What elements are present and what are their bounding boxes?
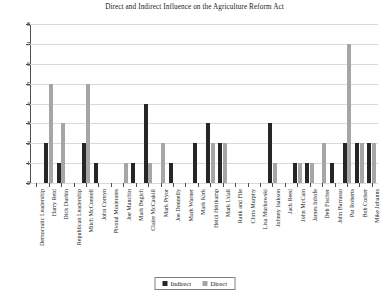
x-tick-label: Jack Reed bbox=[287, 189, 293, 214]
x-tick-mark bbox=[123, 183, 124, 187]
x-tick-mark bbox=[272, 183, 273, 187]
x-tick-label: John Barrasso bbox=[337, 189, 343, 223]
grid-line bbox=[30, 64, 378, 65]
bar-indirect bbox=[343, 143, 347, 183]
x-tick-mark bbox=[86, 183, 87, 187]
bar-direct bbox=[161, 143, 165, 183]
x-tick-mark bbox=[223, 183, 224, 187]
x-tick-mark bbox=[111, 183, 112, 187]
x-tick-label: John Cornyn bbox=[101, 189, 107, 220]
x-tick-mark bbox=[74, 183, 75, 187]
chart-container: Direct and Indirect Influence on the Agr… bbox=[0, 0, 389, 302]
bar-indirect bbox=[268, 123, 272, 183]
x-tick-mark bbox=[98, 183, 99, 187]
x-tick-label: James Inhofe bbox=[312, 189, 318, 221]
x-tick-mark bbox=[310, 183, 311, 187]
x-tick-label: Heidi Heitkamp bbox=[213, 189, 219, 228]
x-tick-mark bbox=[49, 183, 50, 187]
x-tick-mark bbox=[36, 183, 37, 187]
x-tick-label: Mark Udall bbox=[225, 189, 231, 217]
x-tick-mark bbox=[210, 183, 211, 187]
bar-indirect bbox=[355, 143, 359, 183]
bar-indirect bbox=[144, 104, 148, 184]
bar-direct bbox=[310, 163, 314, 183]
legend-item-indirect: Indirect bbox=[162, 280, 191, 287]
x-tick-mark bbox=[285, 183, 286, 187]
bar-direct bbox=[347, 44, 351, 183]
x-tick-label: Joe Manchin bbox=[126, 189, 132, 220]
bar-direct bbox=[223, 143, 227, 183]
legend-item-direct: Direct bbox=[202, 280, 227, 287]
x-tick-label: Republican Leadership bbox=[76, 189, 82, 245]
x-tick-label: Mark Pryor bbox=[163, 189, 169, 217]
x-tick-mark bbox=[161, 183, 162, 187]
x-tick-label: Dick Durbin bbox=[63, 189, 69, 220]
x-tick-mark bbox=[260, 183, 261, 187]
x-tick-label: Bob Corker bbox=[362, 189, 368, 218]
bar-indirect bbox=[169, 163, 173, 183]
x-tick-mark bbox=[136, 183, 137, 187]
x-tick-mark bbox=[359, 183, 360, 187]
x-tick-mark bbox=[148, 183, 149, 187]
bar-direct bbox=[61, 123, 65, 183]
bar-direct bbox=[322, 143, 326, 183]
x-tick-label: John McCain bbox=[300, 189, 306, 222]
grid-line bbox=[30, 104, 378, 105]
bar-direct bbox=[298, 163, 302, 183]
grid-line bbox=[30, 183, 378, 184]
plot-area bbox=[30, 24, 378, 183]
x-tick-label: Mark Kirk bbox=[200, 189, 206, 215]
x-tick-mark bbox=[235, 183, 236, 187]
legend-swatch-indirect-icon bbox=[162, 281, 167, 286]
x-tick-mark bbox=[248, 183, 249, 187]
bar-indirect bbox=[293, 163, 297, 183]
x-tick-label: Johnny Isakson bbox=[275, 189, 281, 227]
x-tick-label: Mitch McConnell bbox=[88, 189, 94, 233]
x-tick-label: Deb Fischer bbox=[324, 189, 330, 219]
legend-label-indirect: Indirect bbox=[171, 280, 192, 287]
bar-indirect bbox=[367, 143, 371, 183]
bar-indirect bbox=[57, 163, 61, 183]
x-tick-label: Mark Begich bbox=[138, 189, 144, 221]
bar-indirect bbox=[218, 143, 222, 183]
bar-indirect bbox=[305, 163, 309, 183]
x-tick-mark bbox=[335, 183, 336, 187]
bar-indirect bbox=[193, 143, 197, 183]
x-axis-labels: Democratic LeadershipHarry ReidDick Durb… bbox=[30, 189, 378, 267]
x-tick-mark bbox=[185, 183, 186, 187]
bar-indirect bbox=[82, 143, 86, 183]
bar-indirect bbox=[44, 143, 48, 183]
x-tick-label: Claire McCaskill bbox=[150, 189, 156, 231]
grid-line bbox=[30, 84, 378, 85]
grid-line bbox=[30, 123, 378, 124]
bar-direct bbox=[360, 143, 364, 183]
x-tick-label: Mike Johanns bbox=[374, 189, 380, 223]
grid-line bbox=[30, 44, 378, 45]
x-tick-label: Rank and File bbox=[237, 189, 243, 223]
x-tick-label: Joe Donnelly bbox=[175, 189, 181, 221]
bar-direct bbox=[211, 143, 215, 183]
chart-title: Direct and Indirect Influence on the Agr… bbox=[0, 3, 389, 11]
x-tick-mark bbox=[322, 183, 323, 187]
grid-line bbox=[30, 24, 378, 25]
x-tick-label: Harry Reid bbox=[51, 189, 57, 216]
x-tick-mark bbox=[297, 183, 298, 187]
bar-direct bbox=[273, 163, 277, 183]
x-tick-mark bbox=[198, 183, 199, 187]
x-tick-mark bbox=[173, 183, 174, 187]
x-tick-label: Lisa Murkowski bbox=[262, 189, 268, 229]
legend-swatch-direct-icon bbox=[202, 281, 207, 286]
bar-direct bbox=[86, 84, 90, 183]
x-tick-mark bbox=[372, 183, 373, 187]
bar-indirect bbox=[206, 123, 210, 183]
x-tick-label: Pivotal Moderates bbox=[113, 189, 119, 234]
bar-direct bbox=[372, 143, 376, 183]
bar-indirect bbox=[94, 163, 98, 183]
x-tick-label: Democratic Leadership bbox=[39, 189, 45, 246]
bar-indirect bbox=[330, 163, 334, 183]
bar-direct bbox=[148, 163, 152, 183]
x-tick-mark bbox=[61, 183, 62, 187]
x-tick-label: Mark Warner bbox=[188, 189, 194, 221]
x-tick-label: Pat Roberts bbox=[349, 189, 355, 217]
bar-direct bbox=[49, 84, 53, 183]
